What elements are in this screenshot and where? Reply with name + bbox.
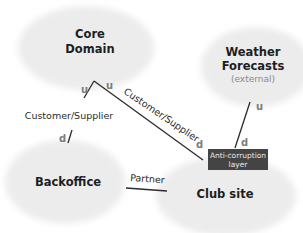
acl-label-line2: layer xyxy=(229,160,249,169)
context-title-core-line2: Domain xyxy=(65,42,114,56)
context-map-diagram: Core Domain Weather Forecasts (external)… xyxy=(0,0,303,233)
context-title-weather-line2: Forecasts xyxy=(222,59,285,73)
marker-downstream-weather: d xyxy=(241,137,248,148)
marker-downstream-core-backoffice: d xyxy=(59,133,66,144)
marker-upstream-core-backoffice: u xyxy=(81,84,88,95)
context-title-club-site: Club site xyxy=(197,187,254,201)
rel-label-partner: Partner xyxy=(130,172,165,185)
marker-upstream-weather: u xyxy=(256,101,263,112)
marker-upstream-core-clubsite: u xyxy=(106,80,113,91)
marker-downstream-core-clubsite: d xyxy=(196,139,203,150)
rel-label-core-clubsite: Customer/Supplier xyxy=(122,86,202,145)
acl-label-line1: Anti-corruption xyxy=(210,151,266,160)
context-title-core-line1: Core xyxy=(75,27,105,41)
context-title-backoffice: Backoffice xyxy=(35,175,101,189)
context-title-weather-line1: Weather xyxy=(226,45,281,59)
rel-label-core-backoffice: Customer/Supplier xyxy=(25,110,114,121)
diagram-canvas: Core Domain Weather Forecasts (external)… xyxy=(0,0,303,233)
context-subtitle-weather: (external) xyxy=(231,74,275,84)
